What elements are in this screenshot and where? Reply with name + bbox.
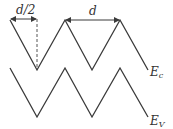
conduction-band-label: Ec [149, 65, 164, 80]
band-diagram: d/2 d Ec EV [0, 0, 173, 129]
half-period-label: d/2 [16, 3, 35, 17]
period-label: d [89, 4, 97, 18]
conduction-band-line [10, 20, 148, 70]
valence-band-label: EV [149, 114, 166, 129]
valence-band-line [10, 68, 148, 117]
